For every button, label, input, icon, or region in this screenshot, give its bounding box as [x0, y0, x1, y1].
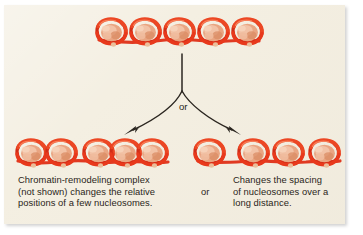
starting-nucleosome-array	[97, 19, 262, 47]
nucleosome	[199, 19, 228, 47]
caption-left-outcome: Chromatin-remodeling complex (not shown)…	[18, 174, 190, 209]
respaced-nucleosome-array	[195, 140, 340, 168]
nucleosome	[274, 140, 303, 168]
nucleosome	[131, 19, 160, 47]
nucleosome	[47, 140, 76, 168]
nucleosome	[239, 140, 268, 168]
nucleosome	[310, 140, 339, 168]
nucleosome	[195, 140, 224, 168]
nucleosome	[111, 140, 140, 168]
branch-arrows	[124, 54, 241, 135]
caption-separator-or: or	[201, 186, 209, 198]
arrow-to-left-outcome	[133, 91, 182, 130]
nucleosome	[17, 140, 46, 168]
branch-or-label: or	[179, 101, 188, 112]
arrow-to-right-outcome	[182, 91, 232, 130]
nucleosome	[138, 140, 167, 168]
arrowhead-left	[124, 126, 139, 135]
caption-right-outcome: Changes the spacing of nucleosomes over …	[233, 174, 343, 209]
nucleosome	[97, 19, 126, 47]
nucleosome	[84, 140, 113, 168]
nucleosome	[165, 19, 194, 47]
figure-root: or Chromatin-remodeling complex (not sho…	[0, 0, 363, 235]
arrowhead-right	[226, 126, 241, 135]
nucleosome	[233, 19, 262, 47]
repositioned-nucleosome-array	[17, 140, 168, 168]
